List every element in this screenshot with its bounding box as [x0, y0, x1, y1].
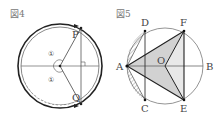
point-f	[183, 30, 186, 33]
label-f: F	[180, 17, 187, 28]
point-e	[183, 99, 186, 102]
label-q: Q	[72, 92, 80, 103]
point-c	[144, 99, 147, 102]
angle-label-top: ①	[48, 50, 54, 58]
figure-5-drawing: 図5 A B D C F E O	[111, 0, 222, 128]
label-c: C	[141, 103, 149, 114]
figure-4-drawing: 図4 P Q ① ①	[0, 0, 111, 128]
figure-5: 図5 A B D C F E O	[111, 0, 222, 128]
point-a	[125, 64, 128, 67]
figure-5-title: 図5	[116, 9, 131, 19]
figure-4-title: 図4	[10, 9, 25, 19]
right-angle-mark	[81, 62, 85, 66]
label-d: D	[141, 17, 149, 28]
label-e: E	[180, 103, 187, 114]
angle-label-bottom: ①	[48, 76, 54, 84]
point-p	[80, 27, 83, 30]
label-o: O	[157, 55, 165, 66]
center-point	[59, 65, 62, 68]
point-d	[144, 30, 147, 33]
figure-4: 図4 P Q ① ①	[0, 0, 111, 128]
point-q	[80, 103, 83, 106]
label-b: B	[206, 61, 213, 72]
label-p: P	[72, 29, 79, 40]
label-a: A	[115, 61, 124, 72]
